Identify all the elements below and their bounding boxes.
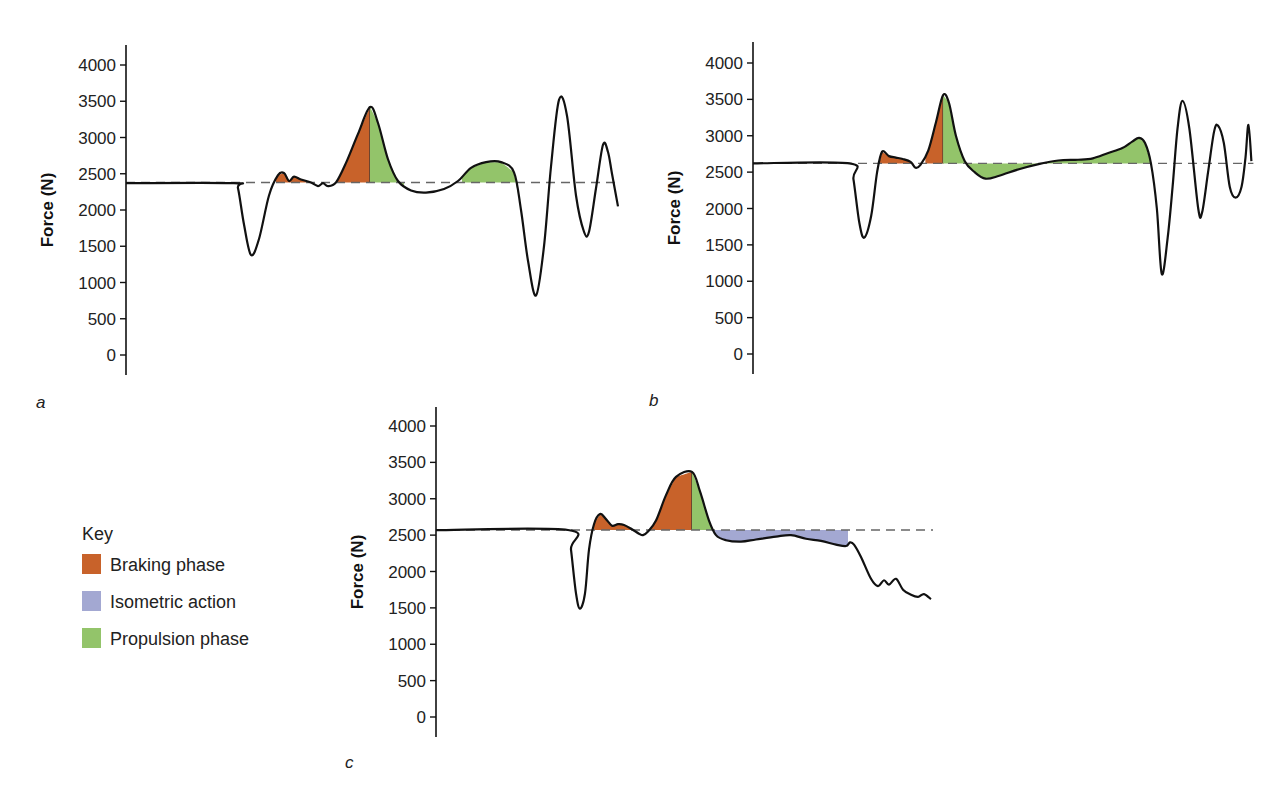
y-axis-title-b: Force (N) bbox=[665, 171, 684, 246]
y-tick-label: 3000 bbox=[78, 129, 116, 148]
y-axis-a: 05001000150020002500300035004000 bbox=[78, 45, 126, 375]
y-axis-b: 05001000150020002500300035004000 bbox=[705, 42, 753, 374]
legend-title: Key bbox=[82, 524, 113, 544]
y-tick-label: 2500 bbox=[78, 165, 116, 184]
y-tick-label: 3500 bbox=[78, 92, 116, 111]
shaded-phases-a bbox=[126, 96, 620, 295]
y-tick-label: 0 bbox=[107, 346, 116, 365]
y-tick-label: 1500 bbox=[705, 236, 743, 255]
y-tick-label: 3000 bbox=[705, 127, 743, 146]
y-tick-label: 1000 bbox=[705, 272, 743, 291]
shaded-propulsion-region bbox=[370, 107, 404, 185]
panel-label-a: a bbox=[36, 393, 45, 412]
y-tick-label: 500 bbox=[88, 310, 116, 329]
panel-label-c: c bbox=[345, 753, 354, 772]
y-tick-label: 500 bbox=[715, 309, 743, 328]
y-tick-label: 3500 bbox=[388, 453, 426, 472]
legend-swatch-braking bbox=[82, 554, 101, 574]
y-axis-title-c: Force (N) bbox=[348, 535, 367, 610]
y-tick-label: 2000 bbox=[78, 201, 116, 220]
y-tick-label: 4000 bbox=[78, 56, 116, 75]
shaded-propulsion-region bbox=[943, 95, 1151, 179]
chart-panel-c: 05001000150020002500300035004000 Force (… bbox=[345, 407, 933, 772]
y-tick-label: 4000 bbox=[388, 417, 426, 436]
y-tick-label: 1000 bbox=[388, 635, 426, 654]
y-tick-label: 2000 bbox=[705, 200, 743, 219]
panel-label-b: b bbox=[649, 391, 658, 410]
shaded-phases-c bbox=[436, 471, 933, 609]
y-tick-label: 0 bbox=[417, 708, 426, 727]
y-tick-label: 4000 bbox=[705, 54, 743, 73]
legend-swatch-isometric bbox=[82, 591, 101, 611]
legend-label-isometric: Isometric action bbox=[110, 592, 236, 612]
shaded-phases-b bbox=[753, 94, 1253, 275]
legend-swatch-propulsion bbox=[82, 628, 101, 648]
y-tick-label: 3500 bbox=[705, 90, 743, 109]
y-axis-title-a: Force (N) bbox=[38, 173, 57, 248]
chart-panel-a: 05001000150020002500300035004000 Force (… bbox=[36, 45, 620, 412]
legend: Key Braking phase Isometric action Propu… bbox=[82, 524, 249, 649]
y-tick-label: 2000 bbox=[388, 563, 426, 582]
chart-panel-b: 05001000150020002500300035004000 Force (… bbox=[649, 42, 1253, 410]
force-time-figure: 05001000150020002500300035004000 Force (… bbox=[0, 0, 1283, 794]
y-tick-label: 2500 bbox=[388, 526, 426, 545]
legend-label-braking: Braking phase bbox=[110, 555, 225, 575]
y-tick-label: 0 bbox=[734, 345, 743, 364]
force-curve bbox=[753, 94, 1251, 275]
y-tick-label: 1000 bbox=[78, 274, 116, 293]
y-tick-label: 1500 bbox=[78, 237, 116, 256]
y-tick-label: 2500 bbox=[705, 163, 743, 182]
y-tick-label: 1500 bbox=[388, 599, 426, 618]
y-tick-label: 3000 bbox=[388, 490, 426, 509]
y-axis-c: 05001000150020002500300035004000 bbox=[388, 407, 436, 737]
legend-label-propulsion: Propulsion phase bbox=[110, 629, 249, 649]
y-tick-label: 500 bbox=[398, 672, 426, 691]
